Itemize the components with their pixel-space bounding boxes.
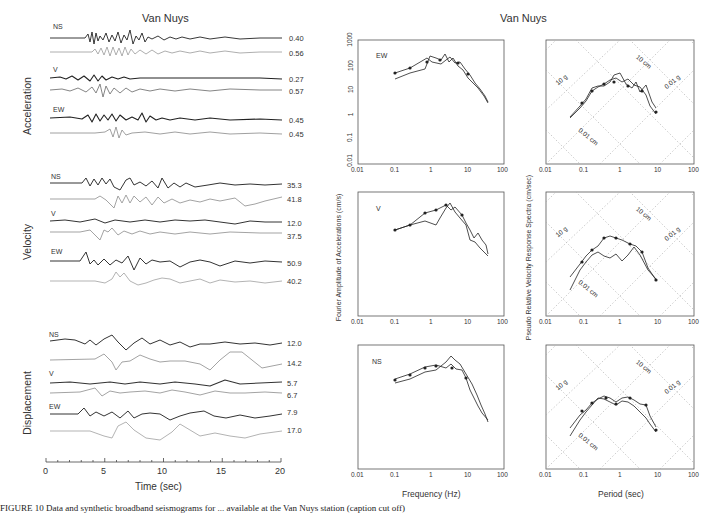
- fourier2-xtick-4: 100: [497, 318, 508, 325]
- psv3-xtick-2: 1: [618, 471, 622, 478]
- fourier2-xtick-0: 0.01: [351, 318, 364, 325]
- fourier-label-ew: EW: [376, 52, 387, 59]
- fourier3-xtick-1: 0.1: [390, 471, 399, 478]
- psv3-xtick-0: 0.01: [539, 471, 552, 478]
- psv1-xtick-4: 100: [688, 166, 699, 173]
- psv2-xtick-0: 0.01: [539, 318, 552, 325]
- spectra-plots: [0, 0, 713, 513]
- fourier1-xtick-0: 0.01: [351, 166, 364, 173]
- psv2-xtick-2: 1: [618, 318, 622, 325]
- psv2-xtick-4: 100: [688, 318, 699, 325]
- fourier3-xtick-4: 100: [497, 471, 508, 478]
- psv1-xtick-2: 1: [618, 166, 622, 173]
- fourier1-xtick-4: 100: [497, 166, 508, 173]
- psv3-xtick-1: 0.1: [579, 471, 588, 478]
- fourier-label-v: V: [376, 205, 381, 212]
- figure-caption: FIGURE 10 Data and synthetic broadband s…: [0, 503, 405, 513]
- fourier2-xtick-3: 10: [464, 318, 471, 325]
- psv1-xtick-0: 0.01: [539, 166, 552, 173]
- fourier1-xtick-3: 10: [464, 166, 471, 173]
- fourier1-ytick-1: 1: [347, 113, 354, 117]
- fourier1-xtick-2: 1: [429, 166, 433, 173]
- fourier1-ytick-1000: 1000: [346, 32, 353, 46]
- fourier3-xtick-3: 10: [464, 471, 471, 478]
- fourier1-ytick-0.1: 0.1: [346, 133, 353, 142]
- psv2-xtick-3: 10: [654, 318, 661, 325]
- fourier1-xtick-1: 0.1: [390, 166, 399, 173]
- fourier1-ytick-0.01: 0.01: [346, 154, 353, 167]
- psv1-xtick-3: 10: [654, 166, 661, 173]
- psv3-xtick-3: 10: [654, 471, 661, 478]
- fourier3-xtick-0: 0.01: [351, 471, 364, 478]
- fourier3-xtick-2: 1: [429, 471, 433, 478]
- fourier1-ytick-10: 10: [347, 86, 354, 93]
- psv2-xtick-1: 0.1: [579, 318, 588, 325]
- fourier2-xtick-1: 0.1: [390, 318, 399, 325]
- psv1-xtick-1: 0.1: [579, 166, 588, 173]
- fourier1-ytick-100: 100: [347, 60, 354, 71]
- fourier-label-ns: NS: [372, 358, 382, 365]
- psv3-xtick-4: 100: [688, 471, 699, 478]
- fourier2-xtick-2: 1: [429, 318, 433, 325]
